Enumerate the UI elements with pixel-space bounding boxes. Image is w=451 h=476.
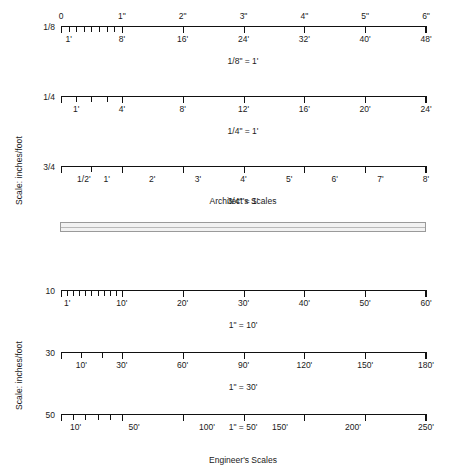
scale-subtick: [122, 414, 123, 421]
divider-inner-line: [61, 227, 425, 228]
scale-subtick: [84, 26, 85, 32]
scale-tick-inch: [183, 26, 184, 33]
scale-subtick: [104, 290, 105, 296]
scale-subtick: [85, 290, 86, 296]
scale-bottom-label: 1': [64, 298, 70, 308]
scale-bottom-label: 8': [179, 104, 185, 114]
scale-bottom-label: 10': [70, 422, 81, 432]
scale-bottom-label: 16': [177, 34, 188, 44]
scale-tick-inch: [365, 96, 366, 103]
scale-bottom-label: 50': [360, 298, 371, 308]
scale-bottom-label: 30': [238, 298, 249, 308]
scale-bottom-label: 12': [238, 104, 249, 114]
scale-bottom-label: 40': [299, 298, 310, 308]
scale-bottom-label: 1': [65, 34, 71, 44]
scale-bottom-label: 150': [272, 422, 288, 432]
scale-bottom-label: 8': [119, 34, 125, 44]
scale-bottom-label: 120': [296, 360, 312, 370]
scale-subtick: [114, 26, 115, 32]
triangular-scale-divider: [60, 222, 426, 232]
scale-bottom-label: 30': [116, 360, 127, 370]
scale-subtick: [102, 352, 103, 358]
scale-bottom-label: 50': [128, 422, 139, 432]
scale-bottom-label: 60': [420, 298, 431, 308]
scale-bottom-label: 24': [238, 34, 249, 44]
scale-tick-inch: [426, 290, 427, 297]
scale-key-50: 50: [23, 410, 55, 420]
scale-tick-inch: [244, 26, 245, 33]
scale-bottom-label: 6': [332, 174, 338, 184]
scale-bottom-label: 8': [423, 174, 429, 184]
scale-top-label: 1": [118, 11, 126, 21]
scale-bottom-label: 7': [377, 174, 383, 184]
group-caption-engineer: Engineer's Scales: [209, 455, 277, 465]
scale-subtick: [99, 26, 100, 32]
scale-subtick: [98, 290, 99, 296]
scale-bottom-label: 1/2': [77, 174, 90, 184]
scale-tick-start: [61, 290, 62, 297]
scale-subtick: [122, 352, 123, 359]
scale-tick-inch: [365, 352, 366, 359]
scale-subtick: [91, 26, 92, 32]
scale-tick-inch: [426, 96, 427, 103]
scale-subtick: [91, 96, 92, 102]
scale-bottom-label: 4': [240, 174, 246, 184]
scale-subtick: [107, 26, 108, 32]
scale-top-label: 4": [300, 11, 308, 21]
scale-subtick: [91, 166, 92, 172]
scale-tick-inch: [304, 352, 305, 359]
scale-bottom-label: 16': [299, 104, 310, 114]
scale-top-label: 0: [59, 11, 64, 21]
scale-bottom-label: 150': [357, 360, 373, 370]
scale-tick-inch: [304, 166, 305, 173]
scale-bottom-label: 3': [195, 174, 201, 184]
scale-tick-inch: [365, 26, 366, 33]
scale-tick-inch: [304, 96, 305, 103]
scale-tick-start: [61, 352, 62, 359]
scale-bottom-label: 20': [360, 104, 371, 114]
scale-tick-inch: [244, 166, 245, 173]
scale-equation-caption: 1" = 50': [229, 422, 258, 432]
scale-tick-inch: [426, 26, 427, 33]
scale-tick-inch: [183, 290, 184, 297]
group-caption-architect: Architect's Scales: [210, 196, 277, 206]
scale-bottom-label: 24': [420, 104, 431, 114]
scale-bottom-label: 180': [418, 360, 434, 370]
scale-bottom-label: 200': [345, 422, 361, 432]
scale-equation-caption: 1" = 10': [229, 320, 258, 330]
scale-tick-inch: [365, 290, 366, 297]
scale-subtick: [122, 166, 123, 173]
scale-tick-inch: [244, 352, 245, 359]
scale-bottom-label: 48': [420, 34, 431, 44]
scale-bottom-label: 40': [360, 34, 371, 44]
scale-tick-inch: [426, 414, 427, 421]
scale-bottom-label: 10': [76, 360, 87, 370]
scale-subtick: [81, 352, 82, 358]
scale-tick-inch: [365, 166, 366, 173]
scale-bottom-label: 90': [238, 360, 249, 370]
scale-subtick: [73, 414, 74, 420]
scale-subtick: [122, 96, 123, 103]
scale-tick-start: [61, 26, 62, 33]
scale-tick-inch: [183, 414, 184, 421]
scale-tick-inch: [244, 96, 245, 103]
scale-bottom-label: 100': [199, 422, 215, 432]
scale-tick-inch: [426, 352, 427, 359]
scale-tick-inch: [304, 290, 305, 297]
scale-key-30: 30: [23, 348, 55, 358]
scale-top-label: 5": [361, 11, 369, 21]
scale-subtick: [69, 26, 70, 32]
scale-tick-inch: [365, 414, 366, 421]
scale-subtick: [85, 414, 86, 420]
scale-tick-inch: [304, 414, 305, 421]
scale-tick-inch: [426, 166, 427, 173]
scale-tick-inch: [244, 414, 245, 421]
scale-equation-caption: 1" = 30': [229, 382, 258, 392]
scale-key-3-4: 3/4: [23, 162, 55, 172]
scale-bottom-label: 20': [177, 298, 188, 308]
scale-subtick: [67, 290, 68, 296]
scale-tick-inch: [183, 96, 184, 103]
scale-bottom-label: 10': [116, 298, 127, 308]
scale-subtick: [107, 96, 108, 102]
scale-subtick: [76, 26, 77, 32]
